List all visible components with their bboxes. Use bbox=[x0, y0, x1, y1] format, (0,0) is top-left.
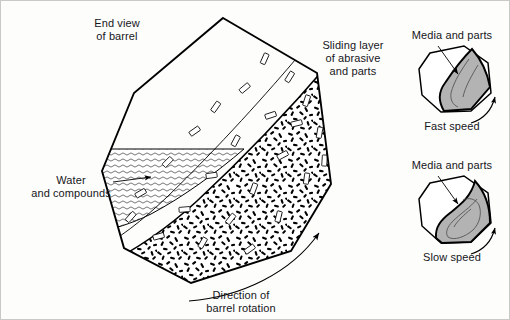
label-water-and-compounds: Water and compounds bbox=[13, 174, 129, 200]
label-media-and-parts-slow: Media and parts bbox=[399, 159, 505, 172]
label-end-view-of-barrel: End view of barrel bbox=[69, 17, 165, 43]
tumbling-barrel-figure: End view of barrel Sliding layer of abra… bbox=[0, 0, 510, 320]
label-fast-speed: Fast speed bbox=[399, 120, 505, 133]
label-slow-speed: Slow speed bbox=[399, 251, 505, 264]
slow-speed-barrel bbox=[419, 176, 495, 254]
label-sliding-layer: Sliding layer of abrasive and parts bbox=[306, 39, 400, 78]
label-media-and-parts-fast: Media and parts bbox=[399, 29, 505, 42]
label-direction-of-barrel-rotation: Direction of barrel rotation bbox=[182, 289, 300, 315]
fast-speed-barrel bbox=[419, 46, 495, 123]
